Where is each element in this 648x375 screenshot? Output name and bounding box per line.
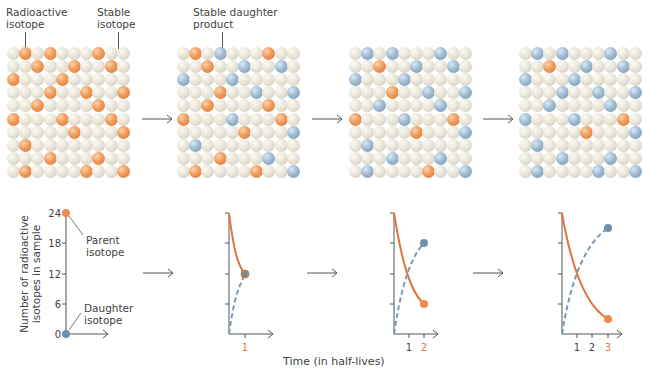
- stable-isotope-atom: [7, 86, 20, 99]
- stable-isotope-atom: [373, 165, 386, 178]
- stable-isotope-atom: [238, 139, 251, 152]
- stable-isotope-atom: [117, 73, 130, 86]
- stable-isotope-atom: [580, 139, 593, 152]
- stable-isotope-atom: [262, 113, 275, 126]
- stable-isotope-atom: [373, 126, 386, 139]
- daughter-product-atom: [434, 152, 447, 165]
- stable-isotope-atom: [105, 86, 118, 99]
- stable-isotope-atom: [386, 165, 399, 178]
- stable-isotope-atom: [92, 139, 105, 152]
- stable-isotope-atom: [531, 113, 544, 126]
- stable-isotope-atom: [262, 73, 275, 86]
- radioactive-isotope-atom: [105, 60, 118, 73]
- parent-end-point: [604, 315, 612, 323]
- stable-isotope-atom: [44, 113, 57, 126]
- stable-isotope-atom: [275, 152, 288, 165]
- stable-isotope-atom: [189, 86, 202, 99]
- stable-isotope-atom: [117, 47, 130, 60]
- stable-isotope-atom: [361, 152, 374, 165]
- stable-isotope-atom: [105, 99, 118, 112]
- stable-isotope-atom: [287, 113, 300, 126]
- stable-isotope-atom: [459, 60, 472, 73]
- radioactive-isotope-atom: [214, 152, 227, 165]
- stable-isotope-atom: [80, 126, 93, 139]
- stable-isotope-atom: [422, 60, 435, 73]
- isotope-grid-step-1: [177, 47, 301, 179]
- stable-isotope-atom: [568, 47, 581, 60]
- stable-isotope-atom: [250, 47, 263, 60]
- stable-isotope-atom: [56, 47, 69, 60]
- stable-isotope-atom: [422, 47, 435, 60]
- daughter-product-atom: [629, 165, 642, 178]
- parent-isotope-point: [62, 209, 70, 217]
- stable-isotope-atom: [189, 126, 202, 139]
- stable-isotope-atom: [617, 99, 630, 112]
- daughter-product-atom: [238, 60, 251, 73]
- stable-isotope-atom: [31, 139, 44, 152]
- stable-isotope-atom: [398, 139, 411, 152]
- stable-isotope-atom: [105, 126, 118, 139]
- daughter-product-atom: [568, 113, 581, 126]
- stable-isotope-atom: [56, 152, 69, 165]
- radioactive-isotope-atom: [80, 165, 93, 178]
- stable-isotope-atom: [80, 139, 93, 152]
- stable-isotope-atom: [177, 165, 190, 178]
- stable-isotope-atom: [7, 60, 20, 73]
- stable-isotope-atom: [617, 139, 630, 152]
- stable-isotope-atom: [580, 152, 593, 165]
- stable-isotope-atom: [531, 73, 544, 86]
- stable-isotope-atom: [422, 99, 435, 112]
- stable-isotope-atom: [568, 126, 581, 139]
- daughter-product-atom: [226, 73, 239, 86]
- stable-isotope-atom: [19, 99, 32, 112]
- stable-isotope-atom: [80, 99, 93, 112]
- stable-isotope-atom: [226, 86, 239, 99]
- stable-isotope-atom: [56, 86, 69, 99]
- stable-isotope-atom: [44, 73, 57, 86]
- isotope-grid-step-2: [349, 47, 473, 179]
- radioactive-isotope-atom: [373, 60, 386, 73]
- stable-isotope-atom: [117, 113, 130, 126]
- stable-isotope-atom: [386, 60, 399, 73]
- x-tick-label: 1: [406, 342, 412, 353]
- arrow-right-icon: [481, 113, 517, 125]
- radioactive-isotope-atom: [92, 47, 105, 60]
- stable-isotope-atom: [262, 165, 275, 178]
- stable-isotope-atom: [629, 60, 642, 73]
- daughter-product-atom: [177, 73, 190, 86]
- stable-isotope-atom: [238, 152, 251, 165]
- stable-isotope-atom: [422, 152, 435, 165]
- stable-isotope-atom: [617, 152, 630, 165]
- stable-isotope-atom: [556, 99, 569, 112]
- radioactive-isotope-atom: [201, 99, 214, 112]
- daughter-isotope-label: Daughter isotope: [84, 302, 133, 326]
- y-tick-label: 12: [48, 269, 61, 280]
- stable-isotope-atom: [519, 86, 532, 99]
- stable-isotope-atom: [592, 126, 605, 139]
- stable-isotope-atom: [459, 113, 472, 126]
- stable-isotope-atom: [56, 139, 69, 152]
- label-line: Daughter: [84, 302, 133, 314]
- stable-isotope-atom: [434, 113, 447, 126]
- daughter-product-atom: [349, 73, 362, 86]
- stable-isotope-atom: [349, 152, 362, 165]
- label-line: isotopes in sample: [30, 204, 42, 344]
- stable-isotope-atom: [92, 73, 105, 86]
- daughter-product-atom: [361, 139, 374, 152]
- stable-isotope-atom: [398, 165, 411, 178]
- radioactive-isotope-atom: [44, 152, 57, 165]
- stable-isotope-atom: [250, 152, 263, 165]
- stable-isotope-atom: [580, 47, 593, 60]
- stable-isotope-atom: [604, 165, 617, 178]
- stable-isotope-atom: [422, 113, 435, 126]
- stable-isotope-atom: [262, 60, 275, 73]
- stable-isotope-atom: [410, 152, 423, 165]
- radioactive-isotope-atom: [19, 47, 32, 60]
- stable-isotope-atom: [44, 126, 57, 139]
- daughter-product-atom: [543, 99, 556, 112]
- stable-isotope-atom: [373, 86, 386, 99]
- stable-isotope-atom: [117, 60, 130, 73]
- stable-isotope-atom: [287, 47, 300, 60]
- x-tick-label: 3: [605, 342, 611, 353]
- stable-isotope-atom: [398, 152, 411, 165]
